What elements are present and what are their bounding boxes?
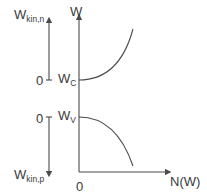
nw-axis-label: N(W) xyxy=(170,175,200,188)
band-diagram xyxy=(0,0,207,195)
kin-n-label: Wkin,n xyxy=(14,8,44,24)
conduction-band-edge-label: WC xyxy=(58,72,76,88)
kin-p-label: Wkin,p xyxy=(14,168,44,184)
w-axis-label: W xyxy=(70,5,82,18)
kin-n-zero-label: 0 xyxy=(36,74,43,87)
valence-band-curve xyxy=(79,117,133,166)
conduction-band-curve xyxy=(79,29,133,80)
kin-p-zero-label: 0 xyxy=(36,112,43,125)
origin-label: 0 xyxy=(76,180,83,193)
valence-band-edge-label: WV xyxy=(58,109,76,125)
